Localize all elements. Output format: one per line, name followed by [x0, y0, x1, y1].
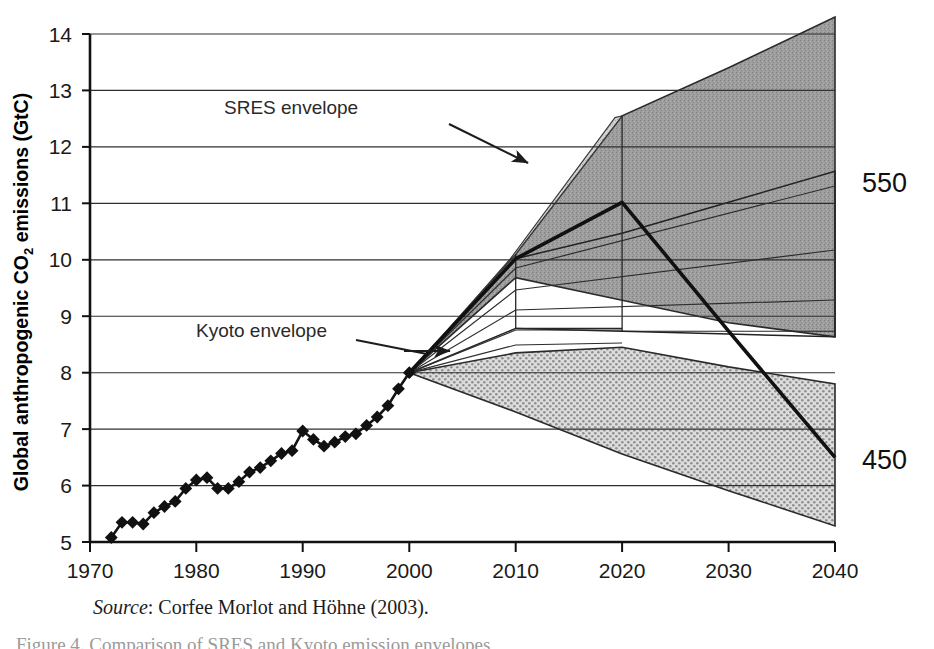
y-tick-11: 11: [50, 192, 72, 215]
x-tick-2030: 2030: [705, 559, 752, 582]
source-note: Source: Corfee Morlot and Höhne (2003).: [93, 596, 429, 619]
y-axis-title-tail: emissions (GtC): [10, 93, 32, 248]
y-tick-12: 12: [49, 135, 72, 158]
side-label-550: 550: [862, 168, 907, 198]
x-tick-2020: 2020: [599, 559, 646, 582]
emissions-chart: 14 13 12 11 10 9 8 7 6 5 1970 1980 1990 …: [0, 0, 934, 649]
x-tick-1980: 1980: [173, 559, 220, 582]
x-tick-labels: 1970 1980 1990 2000 2010 2020 2030 2040: [67, 559, 859, 582]
x-tick-1990: 1990: [279, 559, 326, 582]
y-tick-10: 10: [49, 248, 72, 271]
x-tick-2040: 2040: [812, 559, 859, 582]
svg-text:Global anthropogenic CO2 emiss: Global anthropogenic CO2 emissions (GtC): [10, 93, 36, 491]
y-axis-title: Global anthropogenic CO2 emissions (GtC): [10, 93, 36, 491]
y-tick-13: 13: [49, 79, 72, 102]
y-tick-9: 9: [60, 305, 72, 328]
source-citation: : Corfee Morlot and Höhne (2003).: [148, 596, 429, 618]
y-tick-14: 14: [49, 23, 73, 46]
x-tick-2010: 2010: [492, 559, 539, 582]
kyoto-envelope-label: Kyoto envelope: [196, 320, 327, 341]
figure-caption-cut: Figure 4. Comparison of SRES and Kyoto e…: [16, 634, 921, 649]
y-tick-5: 5: [60, 531, 72, 554]
y-axis-title-subscript: 2: [21, 248, 36, 255]
y-tick-8: 8: [60, 361, 72, 384]
side-labels: 550 450: [862, 168, 907, 475]
y-tick-labels: 14 13 12 11 10 9 8 7 6 5: [49, 23, 73, 554]
sres-envelope-label: SRES envelope: [224, 97, 358, 118]
y-tick-7: 7: [60, 418, 72, 441]
y-tick-6: 6: [60, 474, 72, 497]
x-tick-2000: 2000: [386, 559, 433, 582]
figure-container: 14 13 12 11 10 9 8 7 6 5 1970 1980 1990 …: [0, 0, 934, 649]
x-tick-1970: 1970: [67, 559, 114, 582]
y-axis-title-main: Global anthropogenic CO: [10, 255, 32, 491]
source-label: Source: [93, 596, 148, 618]
side-label-450: 450: [862, 445, 907, 475]
